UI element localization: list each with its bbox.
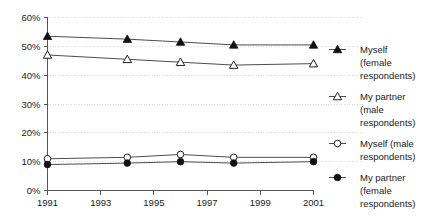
legend-marker: [334, 174, 341, 181]
legend-label: My partner: [360, 172, 405, 183]
data-point-marker: [309, 59, 317, 66]
data-point-marker: [177, 158, 184, 165]
y-tick-label: 0%: [27, 185, 41, 196]
legend-label: respondents): [360, 70, 415, 81]
legend-item[interactable]: My partner(femalerespondents): [329, 172, 415, 209]
y-tick-label: 20%: [21, 127, 41, 138]
chart-canvas: 0%10%20%30%40%50%60% 1991199319951997199…: [0, 0, 429, 217]
legend-label: (female: [360, 57, 392, 68]
data-series: [44, 158, 317, 167]
data-point-marker: [124, 160, 131, 167]
y-tick-label: 30%: [21, 99, 41, 110]
x-tick-label: 2001: [303, 197, 324, 208]
legend-label: My partner: [360, 91, 405, 102]
legend-label: Myself: [360, 44, 388, 55]
legend-label: respondents): [360, 198, 415, 209]
legend-marker: [334, 140, 341, 147]
data-series: [43, 32, 317, 48]
y-tick-label: 50%: [21, 41, 41, 52]
data-point-marker: [310, 158, 317, 165]
data-series: [43, 51, 317, 69]
x-tick-label: 1999: [250, 197, 271, 208]
legend-item[interactable]: My partner(malerespondents): [329, 91, 415, 128]
x-tick-label: 1995: [143, 197, 164, 208]
legend-item[interactable]: Myself (malerespondents): [329, 138, 415, 162]
x-tick-label: 1993: [90, 197, 111, 208]
y-tick-label: 60%: [21, 12, 41, 23]
chart-legend: Myself(femalerespondents)My partner(male…: [329, 44, 415, 209]
line-chart: 0%10%20%30%40%50%60% 1991199319951997199…: [0, 0, 429, 217]
data-point-marker: [43, 32, 51, 39]
y-tick-label: 40%: [21, 70, 41, 81]
y-tick-label: 10%: [21, 156, 41, 167]
data-point-marker: [44, 161, 51, 168]
y-axis-labels-group: 0%10%20%30%40%50%60%: [21, 12, 41, 196]
x-axis-ticks-group: [48, 191, 314, 195]
data-point-marker: [230, 160, 237, 167]
legend-label: respondents): [360, 151, 415, 162]
data-point-marker: [43, 51, 51, 58]
gridlines-group: [48, 18, 366, 162]
data-point-marker: [177, 151, 184, 158]
x-tick-label: 1991: [37, 197, 58, 208]
legend-label: respondents): [360, 117, 415, 128]
legend-label: Myself (male: [360, 138, 414, 149]
legend-label: (female: [360, 185, 392, 196]
x-tick-label: 1997: [197, 197, 218, 208]
x-axis-labels-group: 199119931995199719992001: [37, 197, 324, 208]
series-group: [43, 32, 317, 168]
legend-label: (male: [360, 104, 384, 115]
